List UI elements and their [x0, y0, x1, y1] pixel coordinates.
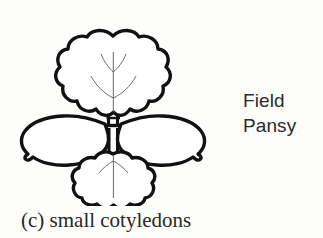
- seedling-diagram: [8, 6, 223, 206]
- true-leaf-lower: [72, 152, 155, 206]
- seedling-drawing: [8, 6, 223, 206]
- species-label-line1: Field: [243, 88, 296, 113]
- true-leaf-upper: [56, 30, 171, 115]
- species-label: Field Pansy: [243, 88, 296, 138]
- species-label-line2: Pansy: [243, 113, 296, 138]
- figure-caption: (c) small cotyledons: [21, 207, 191, 233]
- figure-page: Field Pansy (c) small cotyledons: [0, 0, 323, 238]
